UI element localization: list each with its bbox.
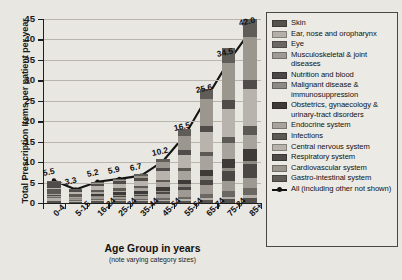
bar-segment (91, 200, 105, 201)
legend: SkinEar, nose and oropharynxEyeMusculosk… (266, 12, 398, 247)
y-axis-ticks: 051015202530354045 (0, 0, 43, 280)
legend-color-swatch (272, 144, 287, 151)
bar-segment (134, 188, 148, 191)
legend-item[interactable]: Infections (272, 131, 393, 140)
bar-segment (113, 184, 127, 188)
bar-segment (243, 164, 257, 179)
bar-segment (91, 196, 105, 197)
bar-segment (113, 179, 127, 180)
legend-item-label: Eye (291, 39, 304, 48)
y-tick-label: 10 (0, 156, 35, 167)
x-axis-note: (note varying category sizes) (43, 256, 262, 263)
bar-segment (113, 188, 127, 190)
legend-color-swatch (272, 102, 287, 109)
bar-segment (134, 196, 148, 199)
legend-line-marker-icon (272, 186, 287, 193)
legend-item[interactable]: Musculoskeletal & joint diseases (272, 50, 393, 69)
y-tick-label: 15 (0, 136, 35, 147)
bar-stack (134, 174, 148, 203)
legend-item[interactable]: Central nervous system (272, 142, 393, 151)
bar-segment (222, 109, 236, 137)
legend-item-label: Ear, nose and oropharynx (291, 29, 377, 38)
y-tick-label: 40 (0, 33, 35, 44)
legend-color-swatch (272, 41, 287, 48)
bar-segment (243, 188, 257, 195)
bar-segment (113, 192, 127, 195)
bar-segment (156, 182, 170, 187)
bar-segment (91, 183, 105, 186)
bar-segment (113, 196, 127, 197)
bar-segment (134, 194, 148, 195)
bar-segment (134, 176, 148, 178)
legend-item[interactable]: Malignant disease & immunosuppression (272, 80, 393, 99)
x-axis-title: Age Group in years (43, 243, 262, 254)
legend-item[interactable]: Cardiovascular system (272, 163, 393, 172)
bar-segment (222, 191, 236, 197)
bar-segment (156, 192, 170, 194)
bar-segment (47, 182, 61, 188)
bar-segment (200, 99, 214, 126)
data-label: 3.3 (64, 174, 77, 186)
bar-segment (178, 136, 192, 151)
legend-item-label: Respiratory system (291, 152, 355, 161)
bar-segment (178, 180, 192, 184)
bar-segment (178, 171, 192, 180)
bar-segment (200, 180, 214, 186)
bar-segment (178, 150, 192, 155)
bar-segment (222, 168, 236, 172)
bar-segment (156, 187, 170, 190)
bar-segment (91, 190, 105, 193)
legend-color-swatch (272, 20, 287, 27)
bar-segment (222, 137, 236, 143)
bar-segment (200, 152, 214, 156)
bar-stack (156, 159, 170, 203)
legend-item[interactable]: Skin (272, 18, 393, 27)
x-tick-mark (43, 204, 44, 209)
bar-segment (222, 159, 236, 168)
bar-segment (156, 159, 170, 162)
legend-item[interactable]: Endocrine system (272, 120, 393, 129)
bar-segment (69, 200, 83, 201)
bar-segment (200, 176, 214, 179)
bar-segment (69, 198, 83, 199)
bar-segment (69, 200, 83, 201)
bar-segment (156, 180, 170, 182)
bar-segment (200, 185, 214, 194)
legend-item-label: Nutrition and blood (291, 70, 354, 79)
bar-segment (156, 194, 170, 199)
legend-item[interactable]: Eye (272, 39, 393, 48)
bar-segment (134, 186, 148, 188)
legend-item[interactable]: All (including other not shown) (272, 184, 393, 193)
bar-segment (243, 161, 257, 164)
legend-item[interactable]: Gastro-intestinal system (272, 173, 393, 182)
legend-color-swatch (272, 175, 287, 182)
legend-item-label: All (including other not shown) (291, 184, 391, 193)
y-tick-label: 5 (0, 177, 35, 188)
legend-item-label: Infections (291, 131, 323, 140)
legend-item[interactable]: Respiratory system (272, 152, 393, 161)
y-tick-label: 20 (0, 115, 35, 126)
chart-figure: Total Prescription Items per patient per… (0, 0, 402, 280)
legend-item-label: Gastro-intestinal system (291, 173, 371, 182)
y-tick-label: 30 (0, 74, 35, 85)
y-tick-label: 0 (0, 197, 35, 208)
bar-segment (178, 155, 192, 168)
legend-item[interactable]: Nutrition and blood (272, 70, 393, 79)
bar-segment (178, 197, 192, 199)
bar-segment (91, 199, 105, 200)
bar-segment (243, 37, 257, 80)
bar-segment (222, 100, 236, 108)
data-label: 6.7 (129, 160, 142, 172)
bar-segment (200, 194, 214, 198)
bar-segment (178, 184, 192, 186)
legend-item[interactable]: Ear, nose and oropharynx (272, 29, 393, 38)
bar-segment (47, 181, 61, 182)
legend-item-label: Central nervous system (291, 142, 370, 151)
legend-color-swatch (272, 165, 287, 172)
bar-segment (178, 190, 192, 197)
bar-segment (69, 192, 83, 193)
bar-segment (200, 126, 214, 132)
legend-item[interactable]: Obstetrics, gynaecology & urinary-tract … (272, 100, 393, 119)
bar-segment (156, 191, 170, 192)
bar-segment (200, 156, 214, 169)
